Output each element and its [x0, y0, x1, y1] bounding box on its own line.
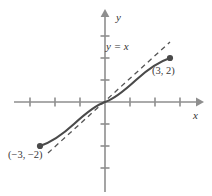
point-label-negative: (−3, −2)	[8, 150, 43, 161]
equation-label-y-equals-x: y = x	[106, 41, 129, 52]
y-axis-arrowhead	[101, 9, 110, 17]
endpoint-positive-dot	[167, 55, 173, 61]
y-axis-label: y	[116, 12, 121, 23]
graph-canvas	[0, 0, 212, 196]
x-axis-label: x	[193, 110, 198, 121]
point-label-positive: (3, 2)	[152, 66, 175, 77]
graph-figure: y x y = x (3, 2) (−3, −2)	[0, 0, 212, 196]
x-axis	[14, 98, 204, 107]
x-axis-arrowhead	[196, 98, 204, 107]
